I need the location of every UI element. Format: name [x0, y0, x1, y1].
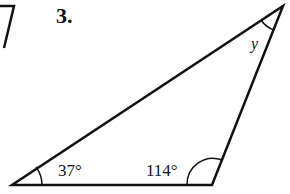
angle-label-bottom-left: 37°	[58, 162, 82, 179]
angle-label-bottom-right: 114°	[146, 162, 178, 179]
angle-label-top: y	[251, 36, 258, 52]
previous-figure-fragment	[0, 6, 14, 48]
triangle	[12, 6, 283, 185]
triangle-diagram	[0, 0, 290, 194]
angle-arc-y	[261, 20, 274, 30]
problem-number: 3.	[56, 5, 73, 27]
